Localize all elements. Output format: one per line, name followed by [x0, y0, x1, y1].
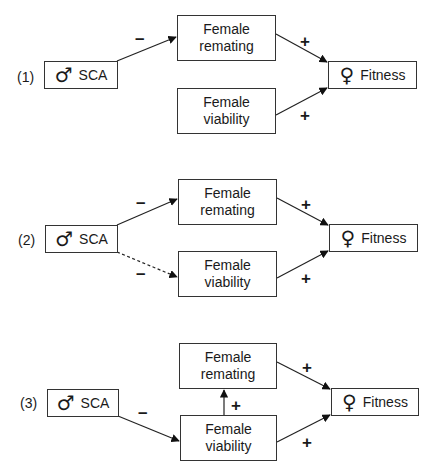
sca-box-3: ♂SCA: [47, 389, 119, 417]
panel-label-1: (1): [17, 69, 34, 85]
remating-line1: Female: [200, 185, 254, 202]
sign-remating-fitness-2: +: [301, 196, 311, 213]
male-symbol-icon: ♂: [57, 393, 75, 413]
remating-line2: remating: [201, 366, 255, 383]
sign-viability-remating-3: +: [231, 397, 241, 414]
fitness-box-1: ♀Fitness: [328, 61, 417, 89]
remating-line1: Female: [201, 349, 255, 366]
viability-box-3: Femaleviability: [180, 415, 277, 461]
fitness-label: Fitness: [361, 230, 406, 247]
arrow-sca-to-viability-3: [118, 416, 179, 441]
sign-viability-fitness-1: +: [300, 107, 310, 124]
fitness-label: Fitness: [363, 394, 408, 411]
sign-sca-viability-3: –: [138, 404, 147, 421]
viability-line1: Female: [204, 257, 251, 274]
male-symbol-icon: ♂: [55, 65, 73, 85]
sca-label: SCA: [81, 395, 110, 412]
sca-box-2: ♂SCA: [45, 225, 118, 253]
sca-label: SCA: [79, 67, 108, 84]
fitness-box-2: ♀Fitness: [329, 224, 418, 252]
panel-label-3: (3): [20, 395, 37, 411]
sign-sca-viability-2: –: [136, 265, 145, 282]
viability-line1: Female: [205, 421, 252, 438]
female-symbol-icon: ♀: [341, 228, 356, 248]
sign-viability-fitness-2: +: [301, 270, 311, 287]
panel-label-2: (2): [18, 232, 35, 248]
remating-line1: Female: [199, 21, 253, 38]
sign-remating-fitness-3: +: [302, 359, 312, 376]
remating-line2: remating: [200, 202, 254, 219]
fitness-box-3: ♀Fitness: [331, 388, 419, 416]
viability-line2: viability: [203, 111, 250, 128]
viability-line1: Female: [203, 94, 250, 111]
remating-box-1: Femaleremating: [177, 15, 276, 61]
viability-line2: viability: [205, 438, 252, 455]
sign-sca-remating-1: –: [135, 30, 144, 47]
viability-box-2: Femaleviability: [178, 251, 277, 297]
remating-box-2: Femaleremating: [178, 179, 277, 225]
arrow-sca-to-viability-dashed-2: [117, 252, 177, 277]
fitness-label: Fitness: [360, 67, 405, 84]
sca-label: SCA: [79, 231, 108, 248]
viability-box-1: Femaleviability: [177, 88, 276, 134]
remating-line2: remating: [199, 38, 253, 55]
sign-remating-fitness-1: +: [300, 33, 310, 50]
male-symbol-icon: ♂: [55, 229, 73, 249]
sign-viability-fitness-3: +: [302, 434, 312, 451]
remating-box-3: Femaleremating: [179, 343, 277, 389]
sca-box-1: ♂SCA: [44, 61, 118, 89]
sign-sca-remating-2: –: [136, 194, 145, 211]
female-symbol-icon: ♀: [340, 65, 355, 85]
viability-line2: viability: [204, 274, 251, 291]
arrow-sca-to-remating-2: [117, 199, 177, 225]
arrow-sca-to-remating-1: [117, 37, 176, 61]
female-symbol-icon: ♀: [342, 392, 357, 412]
